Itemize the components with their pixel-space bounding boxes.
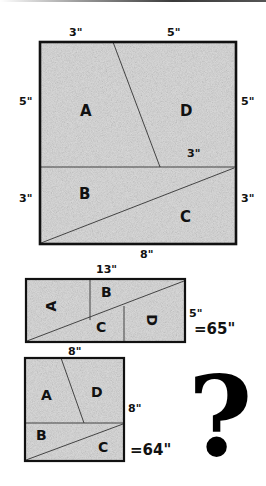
dim-right-upper: 5" [241, 96, 254, 107]
dim-small-right: 8" [128, 403, 141, 414]
piece-label-a: A [41, 388, 52, 402]
piece-label-c: C [98, 440, 108, 454]
piece-label-b: B [101, 285, 112, 299]
dim-inner-mid: 3" [187, 148, 200, 159]
area-65-label: =65" [194, 322, 235, 337]
piece-label-c: C [96, 320, 106, 334]
dim-rect-right: 5" [189, 308, 202, 319]
piece-label-d-rotated: D [145, 314, 159, 326]
dim-top-left: 3" [69, 27, 82, 38]
dim-rect-bottom: 8" [68, 346, 81, 357]
dim-bottom: 8" [140, 249, 153, 260]
question-mark: ? [188, 362, 252, 472]
piece-label-b: B [36, 428, 47, 442]
piece-label-d: D [91, 385, 103, 399]
dim-left-upper: 5" [19, 96, 32, 107]
dim-left-lower: 3" [19, 193, 32, 204]
piece-label-d: D [180, 104, 192, 119]
piece-label-a: A [80, 104, 92, 119]
dim-right-lower: 3" [241, 193, 254, 204]
piece-label-b: B [79, 187, 90, 202]
dim-top-right: 5" [167, 27, 180, 38]
piece-label-a-rotated: A [44, 301, 58, 312]
small-square [25, 358, 124, 461]
area-64-label: =64" [130, 443, 171, 458]
dim-rect-top: 13" [96, 264, 117, 275]
large-square [40, 42, 236, 244]
piece-label-c: C [180, 210, 191, 225]
